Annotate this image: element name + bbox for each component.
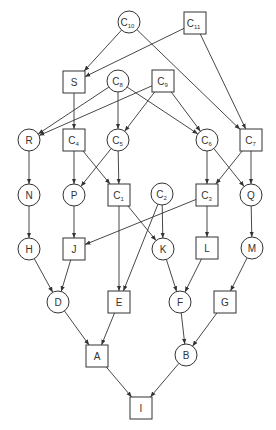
edge-a-to-i	[106, 367, 131, 397]
node-c7: C7	[240, 129, 262, 151]
node-label: G	[221, 297, 229, 308]
node-label: Q	[247, 190, 255, 201]
node-g: G	[214, 291, 236, 313]
node-label: B	[183, 350, 190, 361]
nodes-layer: C10C11SC8C9RC4C5C6C7NPC1C2C3QHJKLMDEFGAB…	[18, 11, 263, 419]
node-label: L	[204, 243, 210, 254]
node-c10: C10	[118, 11, 140, 33]
edge-e-to-a	[101, 313, 114, 345]
node-b: B	[175, 344, 197, 366]
edge-k-to-f	[166, 259, 176, 291]
node-i: I	[130, 397, 152, 419]
node-label: R	[25, 135, 32, 146]
node-c5: C5	[107, 129, 129, 151]
node-c6: C6	[196, 129, 218, 151]
edges-layer	[29, 28, 252, 397]
node-label: D	[54, 297, 61, 308]
node-label: I	[140, 403, 143, 414]
node-j: J	[63, 238, 85, 260]
node-label: A	[94, 351, 101, 362]
edge-q-to-m	[251, 206, 252, 237]
node-label: H	[25, 244, 32, 255]
node-n: N	[18, 184, 40, 206]
node-f: F	[169, 291, 191, 313]
edge-c11-to-s	[85, 28, 184, 76]
edge-c9-to-r	[39, 86, 152, 136]
node-e: E	[108, 291, 130, 313]
node-label: N	[25, 190, 32, 201]
edge-c10-to-s	[84, 30, 121, 71]
dependency-graph: C10C11SC8C9RC4C5C6C7NPC1C2C3QHJKLMDEFGAB…	[0, 0, 276, 430]
node-p: P	[63, 184, 85, 206]
node-h: H	[18, 238, 40, 260]
node-label: F	[177, 297, 183, 308]
edge-c1-to-k	[128, 206, 156, 240]
node-c4: C4	[63, 129, 85, 151]
node-label: E	[116, 297, 123, 308]
edge-c9-to-c6	[171, 92, 200, 131]
node-d: D	[47, 291, 69, 313]
node-q: Q	[240, 184, 262, 206]
node-c2: C2	[151, 183, 173, 205]
edge-g-to-b	[193, 313, 217, 346]
node-label: K	[160, 244, 167, 255]
edge-b-to-i	[150, 363, 179, 397]
node-c9: C9	[152, 70, 174, 92]
node-s: S	[63, 71, 85, 93]
node-m: M	[241, 237, 263, 259]
node-k: K	[152, 238, 174, 260]
edge-c8-to-r	[38, 87, 109, 134]
edge-c8-to-c6	[127, 87, 198, 134]
node-a: A	[86, 345, 108, 367]
node-label: S	[71, 77, 78, 88]
node-c8: C8	[107, 70, 129, 92]
edge-m-to-g	[231, 258, 248, 291]
edge-d-to-a	[64, 311, 89, 345]
node-c3: C3	[196, 184, 218, 206]
edge-c3-to-j	[85, 199, 196, 244]
node-label: J	[72, 244, 77, 255]
edge-c11-to-c7	[200, 34, 245, 129]
node-c11: C11	[184, 12, 206, 34]
node-r: R	[18, 129, 40, 151]
node-label: M	[248, 243, 256, 254]
edge-c9-to-c5	[125, 92, 155, 131]
edge-h-to-d	[34, 259, 52, 293]
node-label: P	[71, 190, 78, 201]
edge-j-to-d	[61, 260, 71, 291]
edge-c5-to-c1	[118, 151, 119, 184]
node-l: L	[196, 237, 218, 259]
edge-c2-to-k	[162, 205, 163, 238]
edge-l-to-f	[185, 259, 202, 292]
node-c1: C1	[108, 184, 130, 206]
edge-f-to-b	[181, 313, 185, 344]
